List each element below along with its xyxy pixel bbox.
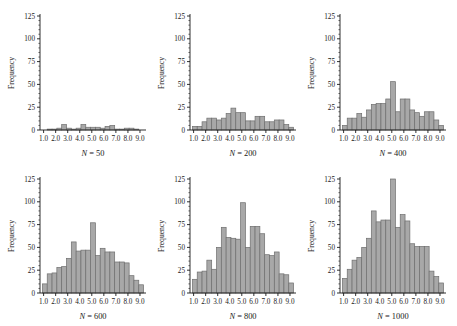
x-axis-tick-label: 7.0 xyxy=(261,135,270,143)
histogram-bar xyxy=(197,272,202,293)
histogram-panel-200: 02550751001251.02.03.04.05.06.07.08.09.0… xyxy=(150,0,300,163)
histogram-bar xyxy=(400,99,405,130)
histogram-bar xyxy=(236,113,241,130)
histogram-bar xyxy=(245,247,250,293)
y-axis-tick-label: 100 xyxy=(24,35,35,43)
histogram-bar xyxy=(207,260,212,293)
x-axis-tick-label: 7.0 xyxy=(411,298,420,306)
histogram-bar xyxy=(212,118,217,130)
y-axis-tick-label: 25 xyxy=(328,104,336,112)
y-axis-tick-label: 0 xyxy=(331,290,335,298)
histogram-bar xyxy=(439,125,444,130)
x-axis-tick-label: 3.0 xyxy=(63,298,72,306)
panel-caption-value: = 600 xyxy=(85,312,106,321)
histogram-bar xyxy=(86,250,91,293)
histogram-bar xyxy=(424,246,429,293)
x-axis-tick-label: 5.0 xyxy=(87,298,96,306)
histogram-bar xyxy=(260,234,265,293)
x-axis-tick-label: 8.0 xyxy=(423,298,432,306)
panel-caption: N = 400 xyxy=(378,149,406,158)
y-axis-tick-label: 50 xyxy=(178,244,186,252)
histogram-bar xyxy=(255,226,260,293)
histogram-bar xyxy=(284,125,289,130)
histogram-bar xyxy=(352,260,357,293)
y-axis-tick-label: 25 xyxy=(178,267,186,275)
x-axis-tick-label: 8.0 xyxy=(423,135,432,143)
x-axis-tick-label: 9.0 xyxy=(435,298,444,306)
histogram-bar xyxy=(347,269,352,293)
histogram-bar xyxy=(342,278,347,293)
y-axis-tick-label: 100 xyxy=(174,198,185,206)
panel-caption: N = 600 xyxy=(78,312,106,321)
y-axis-tick-label: 125 xyxy=(324,13,335,21)
histogram-bar xyxy=(226,114,231,130)
histogram-bar xyxy=(231,108,236,130)
y-axis-tick-label: 125 xyxy=(24,13,35,21)
histogram-bar xyxy=(110,125,115,130)
histogram-bar xyxy=(212,269,217,293)
x-axis-tick-label: 1.0 xyxy=(39,135,48,143)
x-axis-tick-label: 4.0 xyxy=(225,298,234,306)
histogram-bar xyxy=(274,120,279,130)
bars-group xyxy=(47,125,139,130)
x-axis-tick-label: 2.0 xyxy=(201,135,210,143)
histogram-bar xyxy=(255,116,260,130)
y-axis-tick-label: 125 xyxy=(174,176,185,184)
histogram-bar xyxy=(260,116,265,130)
histogram-bar xyxy=(115,262,120,293)
x-axis-tick-label: 4.0 xyxy=(75,298,84,306)
histogram-bar xyxy=(405,99,410,130)
histogram-bar xyxy=(371,104,376,130)
histogram-bar xyxy=(42,284,47,293)
y-axis-tick-label: 125 xyxy=(324,176,335,184)
x-axis-tick-label: 2.0 xyxy=(51,135,60,143)
x-axis-tick-label: 2.0 xyxy=(51,298,60,306)
histogram-bar xyxy=(120,262,125,293)
panel-caption-value: = 800 xyxy=(235,312,256,321)
x-axis-tick-label: 9.0 xyxy=(135,135,144,143)
x-axis-tick-label: 5.0 xyxy=(387,135,396,143)
y-axis-tick-label: 75 xyxy=(178,221,186,229)
y-axis-title: Frequency xyxy=(157,220,166,252)
y-axis-tick-label: 0 xyxy=(181,290,185,298)
histogram-panel-grid: 02550751001251.02.03.04.05.06.07.08.09.0… xyxy=(0,0,457,326)
histogram-bar xyxy=(95,256,100,293)
y-axis-tick-label: 50 xyxy=(28,81,36,89)
histogram-bar xyxy=(226,237,231,293)
y-axis-tick-label: 75 xyxy=(328,58,336,66)
histogram-bar xyxy=(424,112,429,130)
histogram-bar xyxy=(129,276,134,293)
y-axis-tick-label: 0 xyxy=(31,127,35,135)
histogram-bar xyxy=(250,226,255,293)
histogram-bar xyxy=(265,122,270,130)
panel-caption-value: = 400 xyxy=(385,149,406,158)
histogram-bar xyxy=(76,251,81,293)
histogram-bar xyxy=(52,273,57,293)
y-axis-tick-label: 125 xyxy=(24,176,35,184)
x-axis-tick-label: 1.0 xyxy=(339,298,348,306)
x-axis-tick-label: 8.0 xyxy=(123,298,132,306)
x-axis-tick-label: 8.0 xyxy=(273,298,282,306)
histogram-bar xyxy=(241,203,246,293)
x-axis-tick-label: 9.0 xyxy=(435,135,444,143)
x-axis-tick-label: 3.0 xyxy=(363,135,372,143)
y-axis-tick-label: 0 xyxy=(181,127,185,135)
x-axis-tick-label: 3.0 xyxy=(213,298,222,306)
x-axis-tick-label: 3.0 xyxy=(363,298,372,306)
histogram-bar xyxy=(342,125,347,130)
histogram-bar xyxy=(192,126,197,130)
histogram-bar xyxy=(105,252,110,293)
histogram-bar xyxy=(434,277,439,293)
panel-caption: N = 200 xyxy=(228,149,256,158)
x-axis-tick-label: 8.0 xyxy=(273,135,282,143)
histogram-bar xyxy=(274,252,279,293)
histogram-bar xyxy=(352,118,357,130)
histogram-bar xyxy=(386,99,391,130)
histogram-bar xyxy=(400,215,405,293)
y-axis-tick-label: 75 xyxy=(178,58,186,66)
x-axis-tick-label: 6.0 xyxy=(249,135,258,143)
histogram-bar xyxy=(391,82,396,130)
histogram-bar xyxy=(362,117,367,130)
x-axis-tick-label: 9.0 xyxy=(135,298,144,306)
histogram-bar xyxy=(236,239,241,293)
